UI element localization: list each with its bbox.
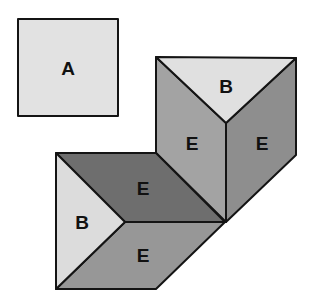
piece-a: A: [18, 19, 118, 116]
piece-a-label: A: [61, 58, 75, 79]
tangram-figure: A B E E E B E: [0, 0, 324, 306]
lower-top-e-label: E: [137, 178, 150, 199]
lower-bottom-e-label: E: [137, 245, 150, 266]
upper-left-e-label: E: [186, 133, 199, 154]
upper-right-e-label: E: [256, 133, 269, 154]
lower-b-label: B: [75, 212, 89, 233]
upper-b-label: B: [219, 76, 233, 97]
